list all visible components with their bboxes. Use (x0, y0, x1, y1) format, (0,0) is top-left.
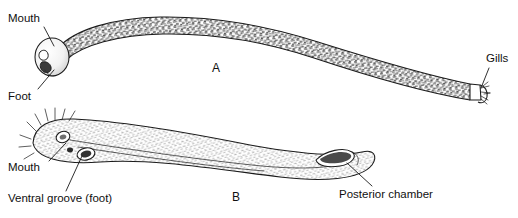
panel-letter-b: B (232, 190, 240, 204)
label-ventral-groove-b: Ventral groove (foot) (8, 192, 112, 204)
panel-b-accessory-pore (67, 148, 73, 153)
anatomical-illustration: Mouth Foot Gills A (0, 0, 518, 218)
panel-a-anterior-bulb (35, 38, 69, 76)
label-mouth-a: Mouth (8, 12, 40, 24)
panel-a-mouth-opening (39, 50, 48, 60)
figure-plate: Mouth Foot Gills A (0, 0, 518, 218)
label-posterior-chamber-b: Posterior chamber (339, 188, 433, 200)
label-foot-a: Foot (8, 90, 32, 102)
label-gills-a: Gills (486, 52, 509, 64)
panel-letter-a: A (212, 61, 220, 75)
label-mouth-b: Mouth (8, 161, 40, 173)
